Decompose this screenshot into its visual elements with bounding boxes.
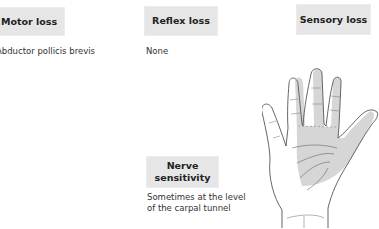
sensory-loss-label-box: Sensory loss xyxy=(297,5,370,34)
motor-loss-label: Motor loss xyxy=(1,16,57,28)
nerve-desc-line-2: of the carpal tunnel xyxy=(147,203,231,213)
nerve-sensitivity-label-box: Nerve sensitivity xyxy=(147,157,218,187)
shaded-sensory-region xyxy=(295,70,374,187)
reflex-loss-label: Reflex loss xyxy=(152,15,210,27)
motor-loss-label-box: Motor loss xyxy=(0,8,64,35)
nerve-sensitivity-line-2: sensitivity xyxy=(155,172,211,183)
nerve-sensitivity-label: Nerve sensitivity xyxy=(155,160,211,184)
hand-palm-icon xyxy=(262,68,379,229)
reflex-loss-label-box: Reflex loss xyxy=(145,7,217,35)
reflex-loss-description: None xyxy=(146,46,168,57)
nerve-sensitivity-description: Sometimes at the level of the carpal tun… xyxy=(147,192,246,214)
sensory-loss-label: Sensory loss xyxy=(300,14,368,26)
motor-loss-description: Abductor pollicis brevis xyxy=(0,46,95,57)
nerve-desc-line-1: Sometimes at the level xyxy=(147,192,246,202)
nerve-sensitivity-line-1: Nerve xyxy=(167,160,199,171)
